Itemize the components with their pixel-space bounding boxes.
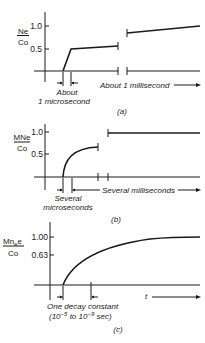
figure-canvas: 1.0 0.5 Ne Co About 1 microsecond About … xyxy=(0,0,205,343)
annotation-b-milli: Several milliseconds xyxy=(102,186,175,195)
annotation-a-micro-2: 1 microsecond xyxy=(38,97,91,106)
ylabel-a-num: Ne xyxy=(18,27,29,36)
ylabel-c-den: Co xyxy=(8,249,19,258)
ytick-label-c-1: 1.00 xyxy=(31,232,48,242)
ytick-label-c-063: 0.63 xyxy=(31,250,48,260)
annotation-b-micro-2: microseconds xyxy=(43,203,92,212)
caption-a: (a) xyxy=(117,107,127,116)
xlabel-c-t: t xyxy=(145,292,148,301)
arrowhead-b-milli xyxy=(196,188,201,192)
curve-c xyxy=(63,237,200,285)
ylabel-b-den: Co xyxy=(17,144,28,153)
panel-c: 1.00 0.63 Mnee Co t One decay constant (… xyxy=(3,222,201,334)
ytick-label-a-1: 1.0 xyxy=(30,21,42,31)
arrowhead-a-milli xyxy=(196,83,201,87)
annotation-c-2: (10−5 to 10−9 sec) xyxy=(49,311,112,321)
ytick-label-a-05: 0.5 xyxy=(30,44,42,54)
annotation-a-milli: About 1 millisecond xyxy=(99,81,170,90)
annotation-a-micro-1: About xyxy=(56,88,79,97)
ylabel-b-num: MNe xyxy=(14,133,31,142)
annotation-b-micro-1: Several xyxy=(54,194,81,203)
ylabel-a-den: Co xyxy=(18,38,29,47)
curve-a-slow xyxy=(127,26,200,33)
ytick-label-b-05: 0.5 xyxy=(31,149,43,159)
arrowhead-c-t xyxy=(196,295,201,299)
curve-b-fast xyxy=(63,147,98,177)
panel-a: 1.0 0.5 Ne Co About 1 microsecond About … xyxy=(17,12,201,116)
curve-a-fast xyxy=(63,46,118,71)
annotation-c-1: One decay constant xyxy=(47,302,119,311)
caption-c: (c) xyxy=(113,325,123,334)
ytick-label-b-1: 1.0 xyxy=(31,127,43,137)
caption-b: (b) xyxy=(111,215,121,224)
panel-b: 1.0 0.5 MNe Co Several milliseconds Seve… xyxy=(14,124,201,224)
